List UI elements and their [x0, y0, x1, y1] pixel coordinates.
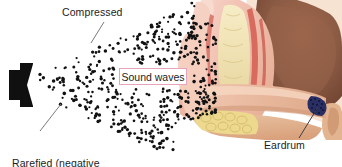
- compressed-leader: [91, 22, 104, 43]
- label-rarefied-line1: Rarefied (negative: [12, 157, 100, 167]
- label-eardrum: Eardrum: [264, 139, 305, 151]
- sound-waves-callout: Sound waves: [119, 68, 187, 85]
- eardrum-leader: [299, 107, 318, 138]
- sound-waves-label: Sound waves: [121, 71, 184, 83]
- sound-waves-ear-figure: Compressed Rarefied (negative pressure) …: [0, 0, 342, 167]
- label-compressed: Compressed: [62, 6, 123, 18]
- label-rarefied: Rarefied (negative pressure): [12, 133, 100, 167]
- rarefied-leader: [40, 104, 61, 131]
